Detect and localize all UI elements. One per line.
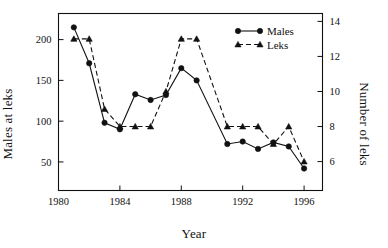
series-line-leks — [74, 39, 304, 162]
legend-marker-males — [257, 28, 262, 33]
right-axis-tick-labels: 68101214 — [330, 16, 341, 167]
legend-label-leks: Leks — [267, 39, 288, 51]
left-tick-label: 200 — [36, 34, 52, 45]
data-point-males — [71, 25, 76, 30]
data-point-males — [163, 92, 168, 97]
data-point-leks — [86, 36, 92, 42]
x-axis-ticks — [59, 186, 305, 191]
data-point-males — [271, 140, 276, 145]
data-point-males — [225, 141, 230, 146]
data-point-leks — [194, 36, 200, 42]
right-tick-label: 8 — [330, 121, 335, 132]
data-point-males — [255, 146, 260, 151]
data-point-males — [179, 65, 184, 70]
x-tick-label: 1984 — [109, 196, 131, 207]
line-chart-canvas: 50100150200 68101214 1980198419881992199… — [0, 0, 388, 248]
x-tick-label: 1992 — [232, 196, 253, 207]
right-tick-label: 10 — [330, 86, 341, 97]
data-point-leks — [286, 123, 292, 129]
data-point-males — [194, 78, 199, 83]
data-point-males — [301, 166, 306, 171]
chart-legend: MalesLeks — [235, 25, 294, 51]
x-tick-label: 1980 — [48, 196, 69, 207]
data-point-males — [286, 144, 291, 149]
data-point-leks — [301, 158, 307, 164]
x-tick-label: 1988 — [171, 196, 192, 207]
y-axis-title-right: Number of leks — [356, 0, 372, 248]
data-point-males — [148, 97, 153, 102]
x-axis-tick-labels: 19801984198819921996 — [48, 196, 315, 207]
data-point-males — [102, 120, 107, 125]
data-point-males — [240, 139, 245, 144]
legend-marker-males — [235, 28, 240, 33]
data-point-males — [117, 127, 122, 132]
left-tick-label: 50 — [41, 157, 52, 168]
data-point-leks — [101, 106, 107, 112]
x-axis-title: Year — [0, 226, 388, 242]
right-tick-label: 6 — [330, 156, 335, 167]
right-tick-label: 12 — [330, 51, 341, 62]
x-tick-label: 1996 — [294, 196, 315, 207]
right-tick-label: 14 — [330, 16, 341, 27]
right-axis-ticks — [318, 21, 323, 161]
left-tick-label: 100 — [36, 116, 52, 127]
left-tick-label: 150 — [36, 75, 52, 86]
left-axis-tick-labels: 50100150200 — [36, 34, 52, 167]
data-point-males — [86, 61, 91, 66]
data-point-males — [133, 92, 138, 97]
legend-label-males: Males — [267, 25, 294, 37]
y-axis-title-left: Males at leks — [0, 0, 16, 248]
chart-figure: 50100150200 68101214 1980198419881992199… — [0, 0, 388, 248]
left-axis-ticks — [59, 40, 64, 162]
